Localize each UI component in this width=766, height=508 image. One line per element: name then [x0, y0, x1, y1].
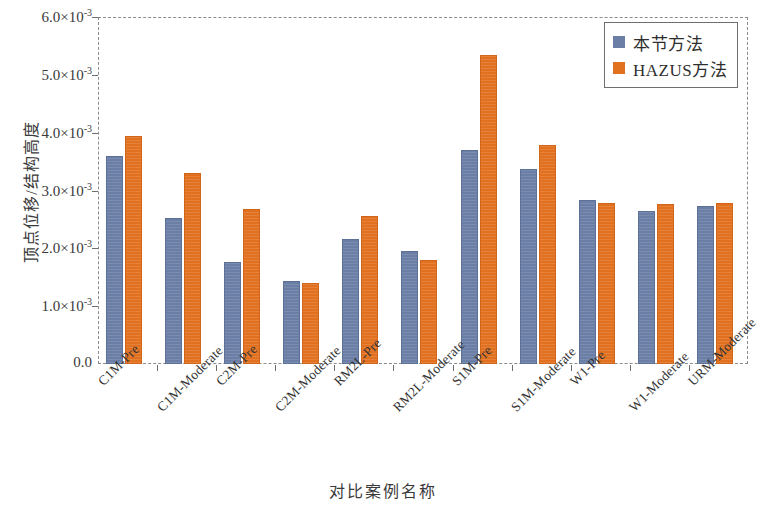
y-tick-label-2: 2.0×10-3: [0, 238, 92, 257]
chart-legend: 本节方法 HAZUS方法: [604, 22, 738, 88]
bar-group: [393, 17, 452, 364]
x-axis-title: 对比案例名称: [0, 478, 766, 502]
bar-chart-figure: 顶点位移/结构高度 0.01.0×10-32.0×10-33.0×10-34.0…: [0, 0, 766, 508]
bar-series1: [598, 203, 615, 364]
bar-group: [98, 17, 157, 364]
x-tick-mark-6: [453, 365, 454, 371]
bar-series0: [638, 211, 655, 364]
bar-series1: [243, 209, 260, 364]
legend-item-1: HAZUS方法: [613, 55, 727, 81]
legend-label-series1: HAZUS方法: [633, 56, 727, 81]
x-tick-mark-8: [571, 365, 572, 371]
legend-item-0: 本节方法: [613, 29, 727, 55]
bar-series0: [106, 156, 123, 364]
bar-series1: [302, 283, 319, 364]
y-tick-exponent-1: -3: [84, 296, 92, 307]
bar-group: [512, 17, 571, 364]
x-tick-mark-1: [157, 365, 158, 371]
bar-series0: [224, 262, 241, 364]
bar-series0: [165, 218, 182, 364]
x-tick-mark-3: [275, 365, 276, 371]
bar-series0: [401, 251, 418, 364]
bar-group: [334, 17, 393, 364]
bar-series1: [125, 136, 142, 364]
bar-series0: [579, 200, 596, 364]
x-tick-mark-4: [334, 365, 335, 371]
y-tick-exponent-2: -3: [84, 238, 92, 249]
x-tick-mark-7: [512, 365, 513, 371]
legend-swatch-icon-series1: [613, 62, 625, 74]
y-tick-label-6: 6.0×10-3: [0, 7, 92, 26]
y-tick-label-4: 4.0×10-3: [0, 123, 92, 142]
bar-group: [216, 17, 275, 364]
legend-label-series0: 本节方法: [633, 30, 703, 55]
y-tick-exponent-4: -3: [84, 123, 92, 134]
bar-series0: [461, 150, 478, 364]
bar-group: [157, 17, 216, 364]
bar-series1: [420, 260, 437, 364]
bar-series0: [697, 206, 714, 364]
y-tick-exponent-3: -3: [84, 181, 92, 192]
bar-series0: [520, 169, 537, 364]
bar-series1: [480, 55, 497, 364]
bar-group: [453, 17, 512, 364]
y-tick-exponent-6: -3: [84, 7, 92, 18]
x-tick-mark-9: [630, 365, 631, 371]
legend-swatch-icon-series0: [613, 36, 625, 48]
y-tick-label-0: 0.0: [0, 354, 92, 371]
y-tick-label-3: 3.0×10-3: [0, 181, 92, 200]
y-tick-label-5: 5.0×10-3: [0, 65, 92, 84]
bar-series0: [342, 239, 359, 364]
bar-series1: [184, 173, 201, 364]
bar-group: [275, 17, 334, 364]
x-tick-mark-2: [216, 365, 217, 371]
bar-series1: [539, 145, 556, 364]
y-tick-label-1: 1.0×10-3: [0, 296, 92, 315]
x-tick-mark-10: [689, 365, 690, 371]
y-tick-exponent-5: -3: [84, 65, 92, 76]
bar-series1: [657, 204, 674, 364]
bar-series0: [283, 281, 300, 364]
x-tick-mark-5: [393, 365, 394, 371]
